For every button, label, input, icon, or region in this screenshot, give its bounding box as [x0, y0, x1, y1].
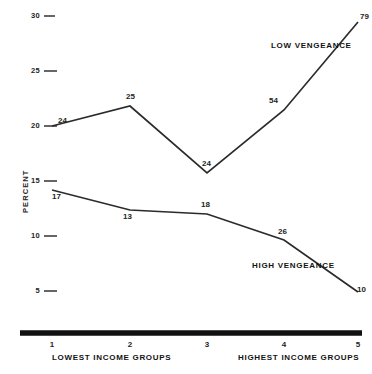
series-annotation-low-vengeance: LOW VENGEANCE	[271, 41, 352, 50]
point-label-low-1: 24	[58, 116, 67, 125]
point-label-low-5: 79	[360, 12, 369, 21]
x-tick-label-2: 2	[123, 340, 137, 349]
point-label-low-2: 25	[126, 92, 135, 101]
point-label-high-3: 18	[201, 200, 210, 209]
y-axis-ticks	[44, 16, 57, 291]
x-tick-label-1: 1	[45, 340, 59, 349]
x-tick-label-4: 4	[277, 340, 291, 349]
x-axis-label-highest-income-groups: HIGHEST INCOME GROUPS	[238, 353, 359, 362]
y-tick-label-5: 5	[22, 286, 40, 295]
y-tick-label-25: 25	[22, 66, 40, 75]
point-label-high-2: 13	[123, 212, 132, 221]
point-label-low-4: 54	[269, 96, 278, 105]
point-label-high-1: 17	[52, 192, 61, 201]
series-annotation-high-vengeance: HIGH VENGEANCE	[252, 261, 335, 270]
chart-figure: 30 25 20 15 10 5 PERCENT 24 25 24 54 79 …	[0, 0, 372, 374]
y-tick-label-30: 30	[22, 11, 40, 20]
x-tick-label-3: 3	[200, 340, 214, 349]
x-axis-label-lowest-income-groups: LOWEST INCOME GROUPS	[52, 353, 171, 362]
y-tick-label-10: 10	[22, 231, 40, 240]
x-tick-label-5: 5	[351, 340, 365, 349]
plot-canvas	[0, 0, 372, 374]
y-tick-label-20: 20	[22, 121, 40, 130]
y-axis-title: PERCENT	[21, 169, 30, 213]
point-label-high-5: 10	[357, 285, 366, 294]
point-label-low-3: 24	[202, 159, 211, 168]
point-label-high-4: 26	[278, 227, 287, 236]
